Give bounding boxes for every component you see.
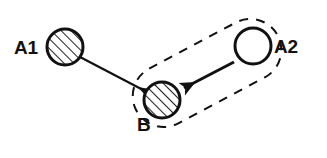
node-label-b: B — [137, 114, 150, 135]
edge-line-a2-b — [184, 62, 234, 88]
node-label-a1: A1 — [14, 37, 38, 58]
diagram-canvas: A1 B A2 — [0, 0, 327, 158]
node-a2-outline — [235, 28, 271, 64]
edge-a2-to-b — [184, 62, 234, 88]
node-a1[interactable] — [44, 26, 86, 68]
node-a1-hatch — [44, 26, 86, 68]
edge-a1-to-b — [80, 57, 147, 92]
edge-line-a1-b — [80, 57, 147, 92]
node-label-a2: A2 — [274, 36, 298, 57]
node-a2[interactable] — [235, 28, 271, 64]
diagram-svg: A1 B A2 — [0, 0, 327, 158]
